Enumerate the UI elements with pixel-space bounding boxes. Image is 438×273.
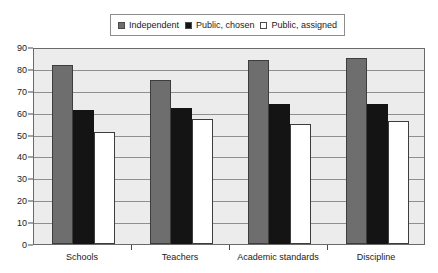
legend-swatch-icon xyxy=(185,22,192,29)
legend-swatch-icon xyxy=(118,22,125,29)
y-axis-tick-label: 30 xyxy=(17,175,27,184)
bar[interactable] xyxy=(290,124,311,244)
legend-entry[interactable]: Public, chosen xyxy=(185,21,255,30)
bar[interactable] xyxy=(248,60,269,244)
bar[interactable] xyxy=(346,58,367,244)
y-axis-tick-label: 70 xyxy=(17,87,27,96)
y-axis-tick-label: 40 xyxy=(17,153,27,162)
y-axis-tick-label: 10 xyxy=(17,219,27,228)
bar[interactable] xyxy=(367,104,388,244)
bar[interactable] xyxy=(192,119,213,244)
bar[interactable] xyxy=(269,104,290,244)
chart-legend: IndependentPublic, chosenPublic, assigne… xyxy=(110,14,345,36)
y-axis-tick-label: 20 xyxy=(17,197,27,206)
legend-label: Independent xyxy=(129,21,179,30)
bar[interactable] xyxy=(171,108,192,244)
plot-area xyxy=(33,48,425,245)
x-axis: SchoolsTeachersAcademic standardsDiscipl… xyxy=(33,245,425,273)
x-axis-tick-mark xyxy=(229,245,230,250)
y-axis-tick-label: 50 xyxy=(17,131,27,140)
bar[interactable] xyxy=(52,65,73,244)
y-axis-tick-label: 0 xyxy=(22,241,27,250)
bar[interactable] xyxy=(73,110,94,244)
legend-swatch-icon xyxy=(260,22,267,29)
y-axis-tick-label: 80 xyxy=(17,65,27,74)
bar-group xyxy=(230,49,328,244)
x-axis-category-label: Schools xyxy=(66,253,98,262)
legend-entry[interactable]: Public, assigned xyxy=(260,21,337,30)
legend-label: Public, chosen xyxy=(196,21,255,30)
bar-group xyxy=(132,49,230,244)
y-axis-tick-label: 90 xyxy=(17,44,27,53)
bar[interactable] xyxy=(94,132,115,244)
x-axis-category-label: Teachers xyxy=(162,253,199,262)
y-axis-tick-label: 60 xyxy=(17,109,27,118)
x-axis-category-label: Academic standards xyxy=(237,253,319,262)
bar[interactable] xyxy=(150,80,171,244)
legend-entry[interactable]: Independent xyxy=(118,21,179,30)
y-axis: 0102030405060708090 xyxy=(0,48,33,245)
x-axis-tick-mark xyxy=(131,245,132,250)
bar[interactable] xyxy=(388,121,409,244)
legend-label: Public, assigned xyxy=(271,21,337,30)
bars-layer xyxy=(34,49,424,244)
x-axis-tick-mark xyxy=(327,245,328,250)
x-axis-category-label: Discipline xyxy=(357,253,396,262)
bar-group xyxy=(34,49,132,244)
bar-group xyxy=(328,49,426,244)
